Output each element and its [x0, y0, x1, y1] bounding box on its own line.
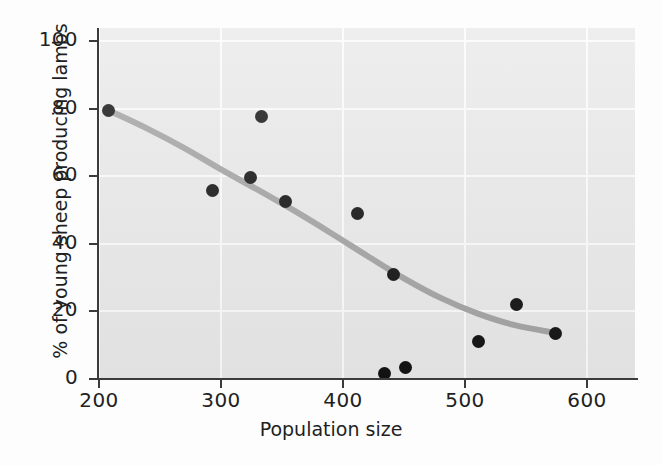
y-axis-title: % of young sheep producing lambs [49, 11, 71, 371]
x-axis-tick-label: 500 [425, 388, 505, 412]
x-axis-tick [586, 379, 588, 388]
data-point [206, 184, 219, 197]
x-axis-tick-label: 300 [181, 388, 261, 412]
x-axis-tick [220, 379, 222, 388]
y-axis-tick [89, 243, 98, 245]
data-point [387, 268, 400, 281]
x-axis-tick [342, 379, 344, 388]
x-axis-tick [464, 379, 466, 388]
data-point [102, 104, 115, 117]
x-axis-tick-label: 200 [59, 388, 139, 412]
data-point [255, 110, 268, 123]
data-point [399, 361, 412, 374]
y-axis-tick [89, 40, 98, 42]
data-point [549, 327, 562, 340]
y-axis-tick [89, 378, 98, 380]
data-point [351, 207, 364, 220]
data-point [472, 335, 485, 348]
y-axis-line [97, 28, 99, 380]
y-axis-tick [89, 310, 98, 312]
x-axis-tick-label: 600 [547, 388, 627, 412]
data-point [510, 298, 523, 311]
plot-area [99, 28, 635, 379]
scatter-plot-figure: 020406080100200300400500600 Population s… [0, 0, 662, 465]
x-axis-tick [98, 379, 100, 388]
x-axis-tick-label: 400 [303, 388, 383, 412]
y-axis-tick [89, 175, 98, 177]
x-axis-line [89, 378, 638, 380]
x-axis-title: Population size [0, 418, 662, 440]
y-axis-tick [89, 108, 98, 110]
